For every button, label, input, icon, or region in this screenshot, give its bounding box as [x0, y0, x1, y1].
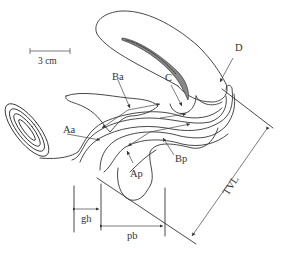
wall-arrows	[102, 104, 190, 146]
scale-label: 3 cm	[38, 56, 57, 66]
label-bp: Bp	[175, 153, 187, 164]
label-aa: Aa	[63, 124, 76, 135]
scale-bar: 3 cm	[30, 48, 70, 66]
label-gh: gh	[81, 213, 92, 224]
pop-q-diagram: 3 cm	[0, 0, 286, 256]
measurements	[74, 89, 273, 244]
label-c: C	[165, 72, 172, 83]
label-pb: pb	[127, 230, 138, 241]
pubic-symphysis	[0, 97, 56, 162]
label-ba: Ba	[112, 71, 124, 82]
label-tvl: TVL	[220, 174, 240, 197]
label-ap: Ap	[130, 168, 143, 179]
rectum	[118, 128, 219, 200]
label-pointers	[67, 58, 233, 163]
uterus	[96, 11, 227, 102]
label-d: D	[235, 42, 243, 53]
